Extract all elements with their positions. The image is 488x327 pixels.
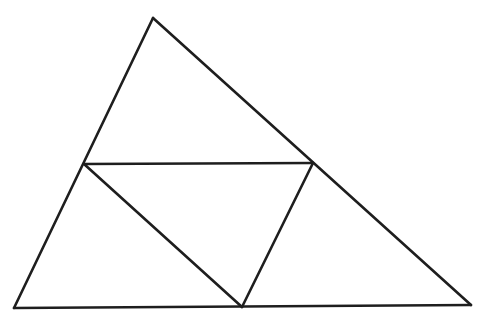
edge-outer-right	[153, 18, 471, 305]
edge-midline-right	[242, 163, 313, 307]
edge-midline-left	[84, 164, 242, 307]
edge-midline-top	[84, 163, 313, 164]
medial-triangle	[84, 163, 313, 307]
triangle-diagram	[0, 0, 488, 327]
